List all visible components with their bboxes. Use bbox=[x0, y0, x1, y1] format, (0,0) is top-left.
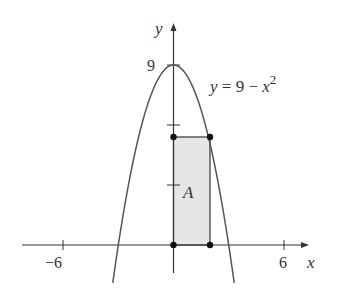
area-label: A bbox=[182, 183, 194, 202]
point-top-right bbox=[207, 134, 213, 140]
y-axis-arrow-icon bbox=[171, 23, 177, 31]
point-origin bbox=[170, 242, 176, 248]
equation-y: y bbox=[208, 77, 218, 96]
y-tick-label-9: 9 bbox=[147, 57, 155, 74]
point-top-left bbox=[170, 134, 176, 140]
x-axis-arrow-icon bbox=[301, 242, 309, 248]
equation-label: y = 9 − x2 bbox=[208, 72, 276, 96]
x-axis-label: x bbox=[306, 253, 315, 272]
y-axis-label: y bbox=[153, 19, 163, 38]
equation-mid: = 9 − bbox=[218, 77, 263, 96]
point-bottom-right bbox=[207, 242, 213, 248]
x-tick-label-6: 6 bbox=[279, 254, 287, 271]
x-tick-label-neg6: −6 bbox=[45, 254, 62, 271]
parabola-chart: y 9 −6 6 x y = 9 − x2 A bbox=[0, 0, 337, 299]
equation-exponent: 2 bbox=[270, 72, 277, 87]
